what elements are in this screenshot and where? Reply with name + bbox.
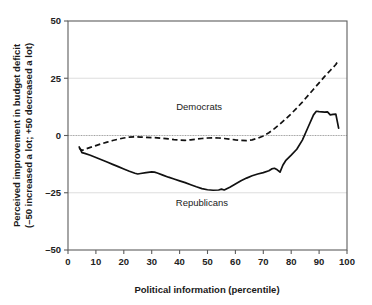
y-tick-label-25: 25 (50, 73, 61, 84)
y-axis-title-line2: (–50 increased a lot; +50 decreased a lo… (23, 43, 34, 228)
x-tick-label-90: 90 (314, 256, 325, 267)
x-tick-label-70: 70 (258, 256, 269, 267)
x-tick-label-0: 0 (65, 256, 70, 267)
x-tick-label-100: 100 (339, 256, 355, 267)
chart-figure: –50–2502550 0102030405060708090100 Democ… (0, 0, 372, 305)
x-tick-label-20: 20 (119, 256, 130, 267)
y-tick-label--25: –25 (45, 187, 62, 198)
series-label-republicans: Republicans (176, 197, 229, 208)
x-axis-title: Political information (percentile) (134, 284, 279, 295)
series-label-democrats: Democrats (176, 101, 222, 112)
y-tick-label-50: 50 (50, 15, 61, 26)
x-tick-label-40: 40 (174, 256, 185, 267)
x-tick-label-10: 10 (91, 256, 102, 267)
x-tick-label-30: 30 (146, 256, 157, 267)
y-axis-title-line1: Perceived improvement in budget deficit (11, 43, 22, 227)
line-chart: –50–2502550 0102030405060708090100 Democ… (0, 0, 372, 305)
y-tick-label--50: –50 (45, 244, 61, 255)
x-tick-label-50: 50 (202, 256, 213, 267)
x-tick-label-80: 80 (286, 256, 297, 267)
x-tick-label-60: 60 (230, 256, 241, 267)
y-tick-label-0: 0 (56, 130, 61, 141)
